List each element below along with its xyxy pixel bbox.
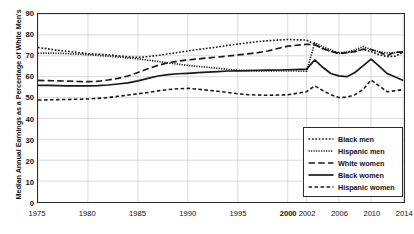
legend-swatch-icon: [308, 146, 334, 156]
x-axis-tick-1990: 1990: [179, 209, 196, 218]
chart-container: Median Annual Earnings as a Percentage o…: [0, 0, 414, 234]
legend-item-black-men[interactable]: Black men: [308, 133, 398, 145]
x-axis-tick-2006: 2006: [331, 209, 348, 218]
legend-item-hispanic-women[interactable]: Hispanic women: [308, 181, 398, 193]
legend-swatch-icon: [308, 158, 334, 168]
series-line-black-women: [38, 59, 403, 86]
x-axis-tick-2014: 2014: [396, 209, 413, 218]
x-axis-tick-1975: 1975: [29, 209, 46, 218]
x-axis-tick-2010: 2010: [363, 209, 380, 218]
legend-swatch-icon: [308, 134, 334, 144]
chart-legend: Black menHispanic menWhite womenBlack wo…: [303, 127, 403, 197]
x-axis-tick-1985: 1985: [129, 209, 146, 218]
legend-label: Hispanic women: [338, 183, 395, 192]
x-axis-tick-1995: 1995: [229, 209, 246, 218]
legend-label: White women: [338, 159, 384, 168]
series-line-hispanic-women: [38, 80, 403, 100]
legend-swatch-icon: [308, 182, 334, 192]
legend-label: Black men: [338, 135, 374, 144]
legend-swatch-icon: [308, 170, 334, 180]
legend-label: Black women: [338, 171, 384, 180]
x-axis-tick-2000: 2000: [280, 209, 297, 218]
legend-item-black-women[interactable]: Black women: [308, 169, 398, 181]
x-axis-tick-2002: 2002: [299, 209, 316, 218]
legend-item-hispanic-men[interactable]: Hispanic men: [308, 145, 398, 157]
legend-label: Hispanic men: [338, 147, 385, 156]
legend-item-white-women[interactable]: White women: [308, 157, 398, 169]
x-axis-tick-1980: 1980: [79, 209, 96, 218]
